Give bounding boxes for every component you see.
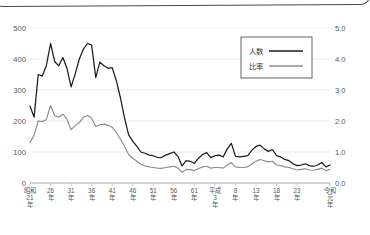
x-axis: 昭和21年26年31年36年41年46年51年56年61年平成3年8年13年18… bbox=[24, 186, 336, 209]
y-tick-label-left: 400 bbox=[13, 55, 26, 64]
y-tick-label-left: 200 bbox=[13, 117, 26, 126]
y-tick-label-left: 100 bbox=[13, 148, 26, 157]
chart-legend[interactable]: 人数比率 bbox=[241, 37, 312, 78]
x-tick-label: 平成3年 bbox=[209, 186, 222, 209]
y-tick-label-right: 0.0 bbox=[335, 179, 346, 188]
legend-box bbox=[241, 37, 312, 78]
y-tick-label-right: 5.0 bbox=[335, 24, 346, 33]
y-axis-left: 0100200300400500 bbox=[13, 24, 26, 188]
y-tick-label-right: 2.0 bbox=[335, 117, 346, 126]
x-tick-label: 8年 bbox=[232, 187, 239, 202]
y-tick-label-left: 500 bbox=[13, 24, 26, 33]
y-tick-label-right: 4.0 bbox=[335, 55, 346, 64]
x-tick-label: 26年 bbox=[47, 187, 55, 202]
axis-ticks bbox=[30, 183, 330, 186]
x-tick-label: 46年 bbox=[129, 187, 137, 202]
x-tick-label: 61年 bbox=[191, 187, 199, 202]
y-axis-right: 0.01.02.03.04.05.0 bbox=[335, 24, 346, 188]
x-tick-label: 31年 bbox=[68, 187, 76, 202]
y-tick-label-right: 1.0 bbox=[335, 148, 346, 157]
x-tick-label: 36年 bbox=[88, 187, 96, 202]
x-tick-label: 56年 bbox=[170, 187, 178, 202]
x-tick-label: 13年 bbox=[252, 187, 260, 202]
x-tick-label: 23年 bbox=[294, 187, 302, 202]
x-tick-label: 昭和21年 bbox=[24, 186, 36, 209]
x-tick-label: 51年 bbox=[150, 187, 158, 202]
legend-label[interactable]: 人数 bbox=[249, 47, 264, 56]
x-tick-label: 41年 bbox=[109, 187, 117, 202]
y-tick-label-left: 300 bbox=[13, 86, 26, 95]
x-tick-label: 令和元年 bbox=[324, 186, 336, 209]
legend-label[interactable]: 比率 bbox=[249, 62, 264, 71]
y-tick-label-right: 3.0 bbox=[335, 86, 346, 95]
x-tick-label: 18年 bbox=[273, 187, 281, 202]
